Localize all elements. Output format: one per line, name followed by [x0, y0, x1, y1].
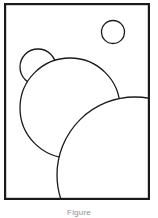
circles-diagram [0, 0, 158, 218]
figure-caption: Figure [0, 208, 158, 217]
circle-small-top-right [102, 21, 125, 44]
figure-root: Figure [0, 0, 158, 218]
